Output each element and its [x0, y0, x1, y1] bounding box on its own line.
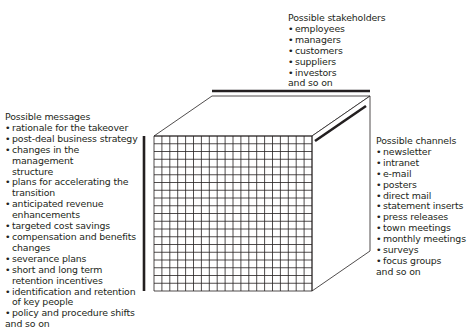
stakeholder-item: investors — [288, 68, 386, 79]
channels-tail: and so on — [376, 267, 466, 278]
message-item: compensation and benefits changes — [5, 232, 139, 254]
channel-item: e-mail — [376, 169, 466, 180]
message-item: policy and procedure shifts — [5, 308, 139, 319]
stakeholder-item: suppliers — [288, 57, 386, 68]
channel-item: focus groups — [376, 256, 466, 267]
message-item: identification and retention of key peop… — [5, 287, 139, 309]
message-item: anticipated revenue enhancements — [5, 199, 112, 221]
messages-list: Possible messages rationale for the take… — [5, 112, 139, 330]
stakeholders-tail: and so on — [288, 78, 386, 89]
message-item: changes in the management structure — [5, 145, 92, 178]
message-item: plans for accelerating the transition — [5, 177, 139, 199]
channels-list: Possible channels newsletter intranet e-… — [376, 136, 466, 278]
stakeholder-item: customers — [288, 46, 386, 57]
messages-tail: and so on — [5, 319, 139, 330]
stakeholders-list: Possible stakeholders employees managers… — [288, 13, 386, 89]
channel-item: posters — [376, 180, 466, 191]
message-item: short and long term retention incentives — [5, 265, 122, 287]
cube-front-grid — [154, 136, 312, 291]
